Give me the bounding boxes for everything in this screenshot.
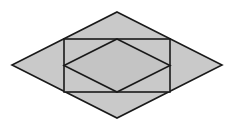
geometry-figure (0, 0, 237, 128)
